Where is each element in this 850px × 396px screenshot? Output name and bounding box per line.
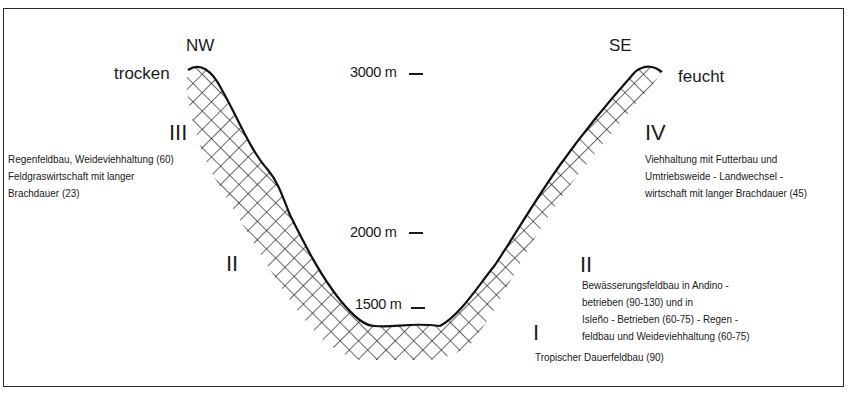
zone-iv-line-3: wirtschaft mit langer Brachdauer (45) — [645, 185, 807, 202]
zone-iii-description: Regenfeldbau, Weideviehhaltung (60) Feld… — [8, 151, 174, 202]
zone-iv-numeral: IV — [645, 120, 666, 146]
altitude-2000-tick — [409, 232, 423, 234]
zone-ii-left-numeral: II — [226, 251, 238, 277]
altitude-1500-tick — [411, 307, 425, 309]
zone-i-line-1: Tropischer Dauerfeldbau (90) — [535, 349, 664, 366]
altitude-3000-tick — [409, 73, 423, 75]
climate-wet-label: feucht — [678, 67, 724, 87]
zone-iii-line-2: Feldgraswirtschaft mit langer — [8, 168, 174, 185]
zone-ii-right-line-4: feldbau und Weideviehhaltung (60-75) — [582, 328, 750, 345]
zone-iii-numeral: III — [169, 120, 187, 146]
direction-nw-label: NW — [186, 36, 214, 56]
zone-iv-description: Viehhaltung mit Futterbau und Umtriebswe… — [645, 151, 807, 202]
altitude-1500-label: 1500 m — [355, 296, 402, 312]
zone-iv-line-2: Umtriebsweide - Landwechsel - — [645, 168, 807, 185]
zone-ii-right-line-3: Isleño - Betrieben (60-75) - Regen - — [582, 311, 750, 328]
zone-iii-line-1: Regenfeldbau, Weideviehhaltung (60) — [8, 151, 174, 168]
zone-ii-right-line-1: Bewässerungsfeldbau in Andino - — [582, 277, 750, 294]
zone-ii-right-description: Bewässerungsfeldbau in Andino - betriebe… — [582, 277, 750, 345]
zone-iii-line-3: Brachdauer (23) — [8, 185, 174, 202]
altitude-2000-label: 2000 m — [350, 224, 397, 240]
climate-dry-label: trocken — [114, 64, 170, 84]
zone-i-numeral: I — [533, 320, 539, 346]
zone-ii-right-numeral: II — [580, 252, 592, 278]
zone-iv-line-1: Viehhaltung mit Futterbau und — [645, 151, 807, 168]
direction-se-label: SE — [609, 36, 632, 56]
altitude-3000-label: 3000 m — [350, 64, 397, 80]
zone-ii-right-line-2: betrieben (90-130) und in — [582, 294, 750, 311]
zone-i-description: Tropischer Dauerfeldbau (90) — [535, 349, 664, 366]
